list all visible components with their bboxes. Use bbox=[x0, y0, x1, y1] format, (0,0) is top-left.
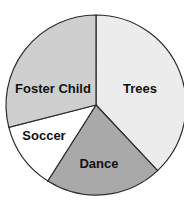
slice-label-dance: Dance bbox=[79, 156, 118, 171]
slice-label-trees: Trees bbox=[123, 81, 157, 96]
pie-chart: Trees Dance Soccer Foster Child bbox=[0, 0, 184, 200]
slice-label-foster-child: Foster Child bbox=[15, 81, 91, 96]
slice-label-soccer: Soccer bbox=[22, 128, 65, 143]
